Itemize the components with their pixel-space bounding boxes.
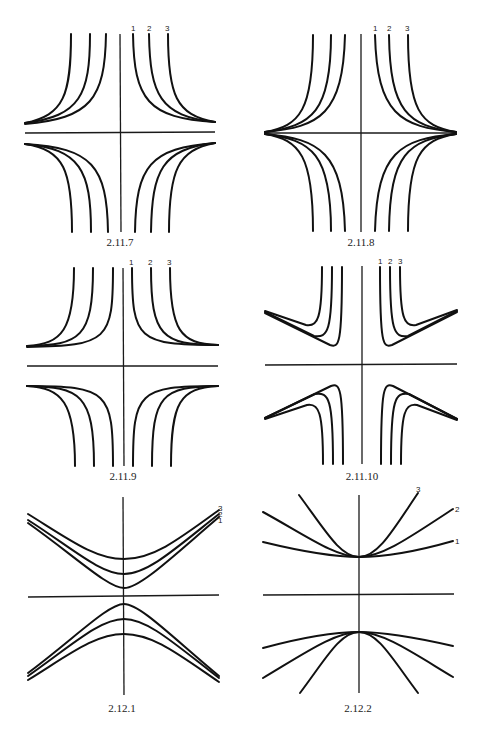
curve-1 [265, 134, 345, 231]
curve-2 [389, 35, 456, 132]
curve-3 [169, 143, 215, 232]
curve-label-2: 2 [455, 505, 460, 514]
curve-1 [27, 268, 113, 347]
y-axis [123, 268, 124, 466]
curve-label-2: 2 [148, 258, 153, 267]
figure-2-11-8: 1 2 3 2.11.8 [265, 24, 456, 248]
curve-3 [265, 134, 313, 231]
curve-1 [265, 35, 345, 132]
curve-label-3: 3 [416, 485, 421, 494]
curve-3 [171, 386, 218, 466]
curve-3 [408, 35, 456, 132]
curve-1 [135, 143, 215, 232]
figure-2-11-7: 1 2 3 2.11.7 [25, 24, 215, 248]
curve-3 [25, 144, 72, 232]
curve-label-3: 3 [405, 24, 410, 33]
curve-label-3: 3 [167, 258, 172, 267]
curve-3 [170, 268, 218, 345]
curve-label-1: 1 [129, 258, 134, 267]
figure-caption: 2.11.9 [109, 470, 137, 482]
curve-3 [168, 34, 215, 122]
figure-2-12-2: 3 2 1 2.12.2 [263, 485, 460, 714]
curve-1 [375, 35, 456, 132]
curve-1 [263, 632, 453, 648]
figure-caption: 2.11.7 [106, 236, 134, 248]
book-page: 1 2 3 2.11.7 1 2 3 2.11.8 [0, 0, 486, 735]
curve-label-1: 1 [373, 24, 378, 33]
curve-label-3: 3 [398, 257, 403, 266]
curve-label-2: 2 [388, 257, 393, 266]
curve-2 [151, 268, 218, 345]
y-axis [123, 497, 124, 695]
curve-2 [265, 35, 331, 132]
curve-label-1: 1 [378, 257, 383, 266]
figures-canvas: 1 2 3 2.11.7 1 2 3 2.11.8 [0, 0, 486, 735]
curve-1 [27, 386, 113, 466]
y-axis [120, 34, 121, 232]
figure-caption: 2.11.10 [346, 470, 379, 482]
curve-label-2: 2 [387, 24, 392, 33]
curve-1 [133, 34, 215, 122]
curve-2 [263, 632, 453, 678]
curve-label-3: 3 [165, 24, 170, 33]
x-axis [265, 364, 457, 365]
curve-2 [263, 509, 453, 557]
curve-3 [27, 268, 74, 346]
curve-label-1: 1 [218, 516, 223, 525]
figure-caption: 2.12.1 [108, 702, 136, 714]
figure-caption: 2.11.8 [347, 236, 375, 248]
curve-label-1: 1 [131, 24, 136, 33]
curve-3 [408, 134, 456, 231]
curve-1 [25, 144, 108, 232]
curve-2 [265, 134, 331, 231]
curve-1 [375, 134, 456, 231]
figure-2-11-10: 1 2 3 2.11.10 [265, 257, 457, 482]
curve-label-2: 2 [147, 24, 152, 33]
figure-2-12-1: 3 2 1 2.12.1 [28, 497, 223, 714]
curve-3 [25, 34, 71, 123]
figure-2-11-9: 1 2 3 2.11.9 [27, 258, 218, 482]
curve-1 [132, 268, 218, 345]
curve-label-1: 1 [455, 537, 460, 546]
curve-3 [27, 386, 75, 466]
curve-1 [263, 541, 453, 557]
curve-1 [133, 386, 218, 466]
curve-3 [265, 35, 313, 132]
curve-2 [389, 134, 456, 231]
figure-caption: 2.12.2 [344, 702, 372, 714]
